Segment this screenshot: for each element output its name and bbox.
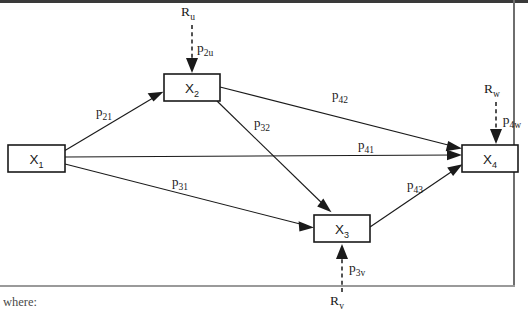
path-label-p42: p42 [332,87,348,105]
node-x3-base: X [335,222,344,237]
residual-source-rv: Rv [330,293,344,311]
path-label-p43: p43 [407,177,423,195]
path-label-p32: p32 [254,115,270,133]
edge-p41 [65,150,462,160]
residual-arrow-rw [490,102,502,144]
node-x2-subscript: 2 [194,89,199,99]
residual-coef-p4w: p4w [503,112,522,130]
node-x2-base: X [185,81,194,96]
path-label-p31: p31 [172,174,188,192]
node-x4-base: X [483,152,492,167]
residual-source-rw: Rw [484,81,500,99]
node-x1[interactable]: X1 [8,145,65,172]
residual-arrow-rv [336,244,348,292]
figure-page: X1 X2 X3 X4 p21 p31 [0,0,528,312]
node-x3[interactable]: X3 [314,215,370,242]
path-diagram: X1 X2 X3 X4 p21 p31 [0,0,528,312]
node-x1-subscript: 1 [39,160,44,170]
path-label-p41: p41 [358,137,374,155]
residual-coef-p3v: p3v [349,260,366,278]
edge-p31 [65,164,314,232]
node-x1-base: X [29,152,38,167]
edge-p21 [65,92,164,151]
node-x4-subscript: 4 [492,160,497,170]
path-label-p21: p21 [96,104,112,122]
node-x2[interactable]: X2 [164,74,220,101]
figure-caption: where: [3,296,37,312]
edge-p43 [370,164,463,227]
residual-source-ru: Ru [181,4,195,22]
residual-coef-p2u: p2u [197,40,214,58]
node-x3-subscript: 3 [344,230,349,240]
node-x4[interactable]: X4 [462,145,518,172]
